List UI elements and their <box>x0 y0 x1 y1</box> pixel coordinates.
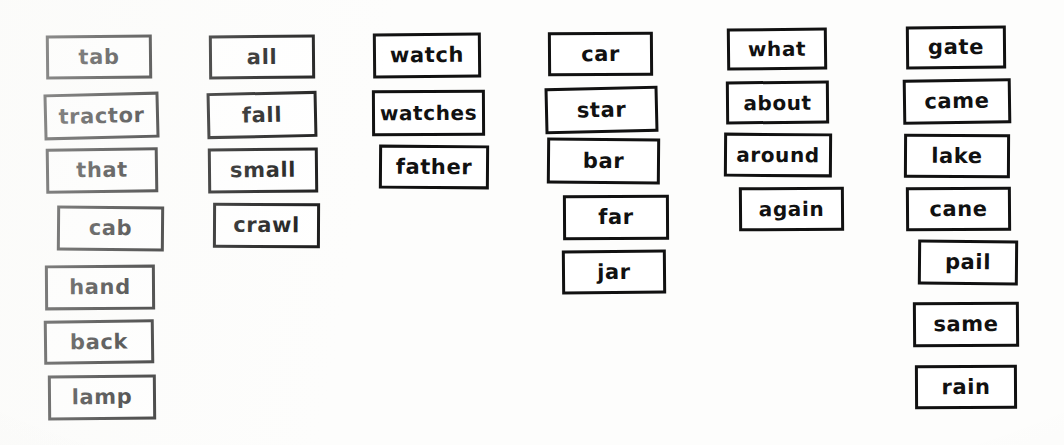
word-card-label: father <box>396 156 473 178</box>
word-card-label: gate <box>928 37 984 58</box>
word-card[interactable]: what <box>727 27 827 70</box>
word-card-label: about <box>743 92 812 113</box>
word-card[interactable]: small <box>208 147 318 193</box>
word-card-label: lamp <box>72 387 133 409</box>
word-card[interactable]: tab <box>46 34 152 79</box>
word-card-label: tab <box>78 46 119 67</box>
word-card-label: back <box>70 331 128 353</box>
word-card-label: rain <box>941 376 990 397</box>
word-card[interactable]: far <box>563 195 669 241</box>
word-card[interactable]: father <box>379 145 489 190</box>
word-card[interactable]: rain <box>915 365 1017 410</box>
word-card[interactable]: that <box>46 147 159 194</box>
word-card[interactable]: back <box>44 319 155 364</box>
word-card[interactable]: gate <box>906 26 1006 70</box>
word-card[interactable]: crawl <box>213 203 320 249</box>
word-card-label: came <box>924 91 989 113</box>
word-card-label: small <box>230 160 296 182</box>
word-card-label: bar <box>583 150 625 171</box>
word-card-label: pail <box>945 252 991 273</box>
word-card-label: all <box>247 46 278 67</box>
word-card[interactable]: about <box>726 81 829 125</box>
word-card-label: around <box>736 145 820 166</box>
word-card[interactable]: lamp <box>48 375 156 421</box>
word-card[interactable]: cane <box>906 187 1011 232</box>
word-card-label: cane <box>929 198 987 219</box>
word-card-label: same <box>933 314 998 335</box>
word-card-label: hand <box>69 277 131 298</box>
word-card[interactable]: cab <box>57 206 164 252</box>
word-card-label: again <box>759 199 825 219</box>
word-card-label: tractor <box>58 104 145 127</box>
worksheet-sheet: tabtractorthatcabhandbacklampallfallsmal… <box>0 0 1064 445</box>
word-card[interactable]: lake <box>904 134 1010 179</box>
word-card-label: crawl <box>233 215 300 236</box>
word-card[interactable]: star <box>544 86 658 135</box>
word-card[interactable]: came <box>903 78 1012 125</box>
word-card-label: fall <box>242 104 283 126</box>
word-card-label: that <box>76 160 128 182</box>
word-card-label: car <box>581 43 620 64</box>
word-card-label: lake <box>931 145 983 166</box>
word-card-label: jar <box>597 261 631 282</box>
word-card[interactable]: all <box>209 35 315 80</box>
word-card[interactable]: tractor <box>43 92 159 141</box>
word-card[interactable]: again <box>739 187 844 232</box>
word-card[interactable]: pail <box>918 240 1018 286</box>
word-card-label: cab <box>89 218 133 239</box>
word-card[interactable]: hand <box>45 265 155 311</box>
word-card[interactable]: bar <box>547 138 660 185</box>
word-card-label: what <box>748 39 806 60</box>
word-card[interactable]: jar <box>562 250 666 295</box>
word-card[interactable]: around <box>724 133 832 178</box>
word-card-label: star <box>577 99 627 121</box>
word-card-label: far <box>598 207 634 228</box>
word-card[interactable]: same <box>913 302 1019 348</box>
word-card[interactable]: watch <box>373 33 481 79</box>
word-card[interactable]: car <box>548 32 653 77</box>
word-card-label: watches <box>380 103 477 124</box>
word-card[interactable]: watches <box>372 90 485 137</box>
word-card[interactable]: fall <box>207 91 318 139</box>
word-card-label: watch <box>390 45 464 67</box>
